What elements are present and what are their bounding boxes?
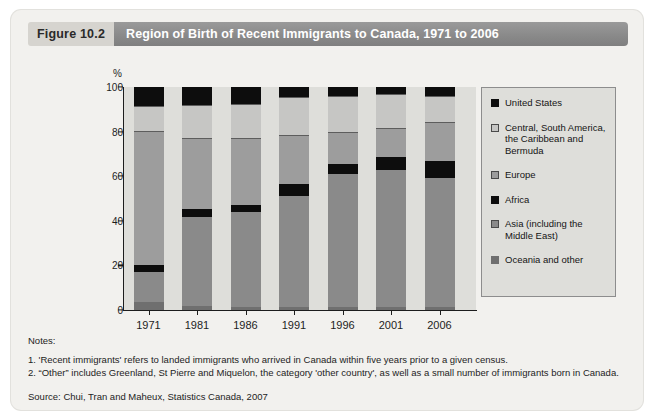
bar-segment[interactable] — [376, 128, 406, 157]
x-tick-mark — [246, 310, 247, 315]
stacked-bar[interactable] — [425, 87, 455, 310]
bar-segment[interactable] — [231, 205, 261, 212]
legend-item[interactable]: Europe — [491, 169, 608, 181]
stacked-bar[interactable] — [279, 87, 309, 310]
legend-label: Europe — [505, 169, 536, 181]
bar-segment[interactable] — [376, 170, 406, 307]
figure-title: Region of Birth of Recent Immigrants to … — [114, 22, 628, 46]
legend-swatch-icon — [491, 196, 499, 204]
bar-segment[interactable] — [134, 265, 164, 272]
legend-swatch-icon — [491, 220, 499, 228]
notes-heading: Notes: — [28, 335, 628, 346]
bar-segment[interactable] — [134, 106, 164, 131]
note-item: 1. 'Recent immigrants' refers to landed … — [28, 353, 628, 366]
x-tick-mark — [440, 310, 441, 315]
note-item: 2. “Other” includes Greenland, St Pierre… — [28, 366, 628, 379]
legend-label: Asia (including theMiddle East) — [505, 218, 583, 241]
stacked-bar[interactable] — [231, 87, 261, 310]
bar-segment[interactable] — [328, 174, 358, 307]
x-tick-label: 1991 — [271, 319, 317, 331]
source-line: Source: Chui, Tran and Maheux, Statistic… — [28, 391, 268, 402]
bar-segment[interactable] — [279, 184, 309, 196]
bar-segment[interactable] — [425, 87, 455, 96]
stacked-bar[interactable] — [328, 87, 358, 310]
legend-swatch-icon — [491, 171, 499, 179]
bar-segment[interactable] — [134, 272, 164, 302]
bar-segment[interactable] — [425, 96, 455, 122]
bar-segment[interactable] — [425, 161, 455, 179]
bar-segment[interactable] — [328, 132, 358, 164]
bar-segment[interactable] — [182, 105, 212, 138]
legend-label: Central, South America,the Caribbean and… — [505, 122, 605, 157]
y-tick-mark — [118, 86, 123, 87]
legend-item[interactable]: Oceania and other — [491, 254, 608, 266]
bar-segment[interactable] — [279, 135, 309, 184]
legend-item[interactable]: United States — [491, 97, 608, 109]
legend-swatch-icon — [491, 124, 499, 132]
bar-segment[interactable] — [376, 94, 406, 129]
x-tick-mark — [343, 310, 344, 315]
bar-segment[interactable] — [328, 87, 358, 96]
stacked-bar[interactable] — [134, 87, 164, 310]
legend-swatch-icon — [491, 99, 499, 107]
bar-segment[interactable] — [134, 131, 164, 266]
bar-segment[interactable] — [231, 212, 261, 307]
x-tick-label: 2006 — [417, 319, 463, 331]
legend-item[interactable]: Africa — [491, 194, 608, 206]
y-tick-mark — [118, 176, 123, 177]
bar-segment[interactable] — [425, 178, 455, 306]
x-tick-mark — [197, 310, 198, 315]
bar-segment[interactable] — [182, 87, 212, 105]
bar-segment[interactable] — [279, 196, 309, 306]
bar-segment[interactable] — [328, 96, 358, 132]
chart-container: % 020406080100 1971198119861991199620012… — [86, 70, 616, 320]
chart-legend: United StatesCentral, South America,the … — [481, 87, 616, 297]
legend-label: United States — [505, 97, 562, 109]
legend-item[interactable]: Central, South America,the Caribbean and… — [491, 122, 608, 157]
y-tick-mark — [118, 220, 123, 221]
bar-segment[interactable] — [328, 164, 358, 174]
legend-label: Africa — [505, 194, 529, 206]
x-tick-label: 1986 — [223, 319, 269, 331]
x-tick-mark — [294, 310, 295, 315]
bar-segment[interactable] — [231, 87, 261, 104]
x-tick-label: 1996 — [320, 319, 366, 331]
legend-item[interactable]: Asia (including theMiddle East) — [491, 218, 608, 241]
x-axis-line — [123, 310, 477, 311]
figure-number: Figure 10.2 — [28, 22, 114, 46]
bar-segment[interactable] — [279, 97, 309, 135]
y-axis-unit-label: % — [113, 68, 122, 79]
bar-segment[interactable] — [231, 138, 261, 205]
bar-segment[interactable] — [376, 87, 406, 94]
bar-segment[interactable] — [231, 104, 261, 139]
y-tick-mark — [118, 131, 123, 132]
bar-segment[interactable] — [376, 157, 406, 169]
x-tick-label: 1971 — [126, 319, 172, 331]
bar-segment[interactable] — [134, 302, 164, 310]
bar-segment[interactable] — [134, 87, 164, 106]
stacked-bar[interactable] — [182, 87, 212, 310]
x-tick-mark — [149, 310, 150, 315]
bar-segment[interactable] — [425, 122, 455, 161]
legend-label: Oceania and other — [505, 254, 583, 266]
bar-segment[interactable] — [182, 209, 212, 218]
y-tick-mark — [118, 309, 123, 310]
figure-card: Figure 10.2 Region of Birth of Recent Im… — [11, 10, 643, 410]
legend-swatch-icon — [491, 256, 499, 264]
figure-header: Figure 10.2 Region of Birth of Recent Im… — [28, 22, 628, 46]
notes-block: Notes: 1. 'Recent immigrants' refers to … — [28, 335, 628, 379]
bar-segment[interactable] — [182, 138, 212, 208]
x-tick-label: 1981 — [174, 319, 220, 331]
bar-segment[interactable] — [279, 87, 309, 97]
bar-segment[interactable] — [182, 217, 212, 305]
y-tick-mark — [118, 265, 123, 266]
stacked-bar[interactable] — [376, 87, 406, 310]
x-tick-mark — [391, 310, 392, 315]
x-tick-label: 2001 — [368, 319, 414, 331]
